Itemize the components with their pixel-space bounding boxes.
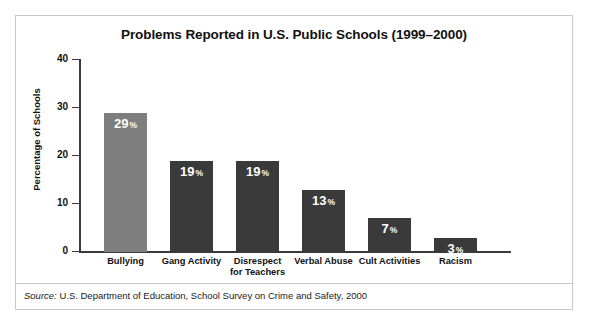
bar-value-cult-activities: 7% (368, 222, 411, 237)
y-tick-label-30: 30 (30, 102, 68, 112)
bar-category-bullying: Bullying (93, 256, 158, 267)
y-tick-label-20: 20 (30, 150, 68, 160)
bar-column-racism: 3% Racism (434, 75, 477, 252)
y-tick-label-0: 0 (30, 246, 68, 256)
bar-value-racism: 3% (434, 242, 477, 257)
bar-category-racism: Racism (423, 256, 488, 267)
y-tick-20 (72, 155, 80, 156)
bar-category-verbal-abuse: Verbal Abuse (291, 256, 356, 267)
source-note: Source: U.S. Department of Education, Sc… (24, 290, 367, 301)
bar-racism[interactable]: 3% (434, 238, 477, 252)
bar-disrespect-for-teachers[interactable]: 19% (236, 161, 279, 252)
y-tick-label-40: 40 (30, 54, 68, 64)
y-tick-10 (72, 203, 80, 204)
bar-bullying[interactable]: 29% (104, 113, 147, 252)
bar-value-verbal-abuse: 13% (302, 194, 345, 209)
source-label: Source: (24, 290, 57, 301)
source-divider (16, 283, 574, 284)
bar-category-disrespect-for-teachers: Disrespect for Teachers (225, 256, 290, 278)
bar-value-disrespect-for-teachers: 19% (236, 165, 279, 180)
source-text: U.S. Department of Education, School Sur… (57, 290, 367, 301)
y-tick-0 (72, 251, 80, 252)
bar-verbal-abuse[interactable]: 13% (302, 190, 345, 252)
bar-column-disrespect-for-teachers: 19% Disrespect for Teachers (236, 75, 279, 252)
bar-category-gang-activity: Gang Activity (159, 256, 224, 267)
plot-area: Percentage of Schools 40 30 20 10 0 29% … (16, 16, 574, 311)
bar-column-bullying: 29% Bullying (104, 75, 147, 252)
y-tick-label-10: 10 (30, 198, 68, 208)
bar-column-verbal-abuse: 13% Verbal Abuse (302, 75, 345, 252)
bar-value-gang-activity: 19% (170, 165, 213, 180)
y-tick-30 (72, 107, 80, 108)
bar-gang-activity[interactable]: 19% (170, 161, 213, 252)
bar-column-cult-activities: 7% Cult Activities (368, 75, 411, 252)
y-tick-40 (72, 59, 80, 60)
bar-cult-activities[interactable]: 7% (368, 218, 411, 252)
bar-column-gang-activity: 19% Gang Activity (170, 75, 213, 252)
bar-value-bullying: 29% (104, 117, 147, 132)
bar-category-cult-activities: Cult Activities (357, 256, 422, 267)
y-axis-label: Percentage of Schools (31, 80, 42, 200)
chart-figure: Problems Reported in U.S. Public Schools… (15, 15, 573, 310)
